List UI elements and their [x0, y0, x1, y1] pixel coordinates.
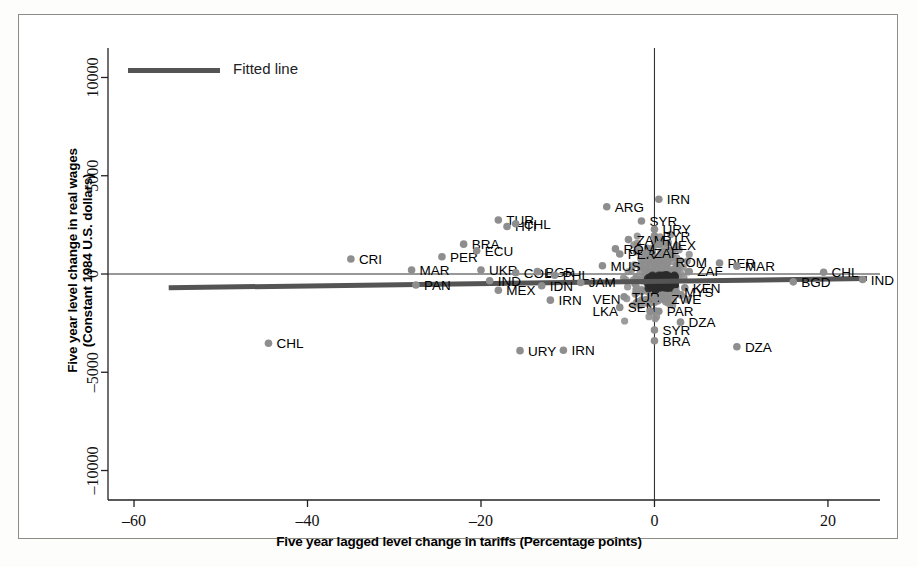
- cluster-point: [652, 315, 659, 322]
- point-marker: [616, 250, 624, 258]
- data-point: MAR: [408, 263, 450, 278]
- scatter-plot: –60–40–20020–10000–50000500010000CRIMARP…: [0, 0, 918, 567]
- point-label: IRN: [571, 343, 594, 358]
- point-marker: [412, 281, 420, 289]
- y-axis-label-line1: Five year level change in real wages: [65, 148, 80, 373]
- point-label: PAN: [424, 278, 451, 293]
- x-axis-label: Five year lagged level change in tariffs…: [0, 534, 918, 549]
- cluster-point: [621, 317, 628, 324]
- point-marker: [486, 277, 494, 285]
- point-label: BRA: [662, 334, 690, 349]
- point-marker: [347, 255, 355, 263]
- point-marker: [859, 276, 867, 284]
- y-axis-label-line2: (Constant 1984 U.S. dollars): [80, 174, 95, 348]
- data-point: IRN: [560, 343, 595, 358]
- point-marker: [551, 271, 559, 279]
- point-marker: [512, 269, 520, 277]
- point-marker: [534, 268, 542, 276]
- point-label: IND: [871, 273, 895, 288]
- y-axis-label: Five year level change in real wages (Co…: [65, 148, 95, 373]
- data-point: CHL: [265, 336, 304, 351]
- point-marker: [473, 247, 481, 255]
- point-marker: [620, 293, 628, 301]
- point-marker: [642, 250, 650, 258]
- data-point: BRA: [651, 334, 691, 349]
- point-marker: [733, 343, 741, 351]
- point-marker: [408, 266, 416, 274]
- point-label: LKA: [593, 304, 619, 319]
- point-label: ARG: [615, 200, 644, 215]
- point-marker: [512, 220, 520, 228]
- point-label: DZA: [688, 315, 715, 330]
- point-marker: [646, 308, 654, 316]
- point-label: MUS: [610, 259, 640, 274]
- point-label: JAM: [589, 275, 616, 290]
- point-marker: [655, 308, 663, 316]
- point-label: CHL: [524, 217, 551, 232]
- point-marker: [603, 203, 611, 211]
- cluster-point: [624, 283, 631, 290]
- point-marker: [638, 217, 646, 225]
- point-marker: [651, 337, 659, 345]
- point-label: DZA: [745, 340, 772, 355]
- point-marker: [655, 196, 663, 204]
- point-label: IRN: [558, 293, 581, 308]
- x-tick-label: –60: [121, 512, 146, 529]
- data-point: CRI: [347, 252, 382, 267]
- point-marker: [516, 347, 524, 355]
- point-label: CHL: [276, 336, 303, 351]
- cluster-point-dark: [662, 283, 670, 291]
- point-label: MAR: [420, 263, 450, 278]
- point-label: URY: [528, 344, 556, 359]
- point-marker: [560, 346, 568, 354]
- point-label: MAR: [745, 259, 775, 274]
- x-tick-label: 0: [650, 512, 658, 529]
- data-point: IRN: [655, 192, 690, 207]
- point-marker: [733, 262, 741, 270]
- point-marker: [503, 223, 511, 231]
- point-marker: [789, 278, 797, 286]
- point-marker: [438, 253, 446, 261]
- point-marker: [599, 262, 607, 270]
- point-marker: [651, 326, 659, 334]
- data-point: DZA: [733, 340, 772, 355]
- point-marker: [547, 296, 555, 304]
- point-marker: [685, 268, 693, 276]
- point-marker: [495, 287, 503, 295]
- point-label: MEX: [506, 283, 535, 298]
- point-marker: [265, 339, 273, 347]
- fitted-line-legend-label: Fitted line: [233, 60, 298, 77]
- fitted-line-legend-swatch: [128, 68, 220, 73]
- point-label: CHL: [832, 265, 859, 280]
- point-marker: [495, 216, 503, 224]
- x-tick-label: –40: [295, 512, 320, 529]
- point-label: PHL: [563, 268, 590, 283]
- point-label: CRI: [359, 252, 382, 267]
- data-point: IRN: [547, 293, 582, 308]
- point-marker: [538, 282, 546, 290]
- x-tick-label: –20: [468, 512, 493, 529]
- point-marker: [460, 240, 468, 248]
- x-tick-label: 20: [820, 512, 836, 529]
- point-label: ECU: [485, 244, 514, 259]
- y-axis-label-wrap: Five year level change in real wages (Co…: [65, 61, 96, 461]
- data-point: MUS: [599, 259, 641, 274]
- chart-page: –60–40–20020–10000–50000500010000CRIMARP…: [0, 0, 918, 567]
- data-point: URY: [516, 344, 556, 359]
- point-marker: [716, 259, 724, 267]
- data-point: IND: [859, 273, 894, 288]
- data-point: PAN: [412, 278, 451, 293]
- point-label: BGD: [801, 275, 831, 290]
- point-marker: [664, 258, 672, 266]
- point-marker: [577, 279, 585, 287]
- point-marker: [659, 295, 667, 303]
- point-marker: [477, 266, 485, 274]
- point-label: IRN: [667, 192, 690, 207]
- data-point: ARG: [603, 200, 644, 215]
